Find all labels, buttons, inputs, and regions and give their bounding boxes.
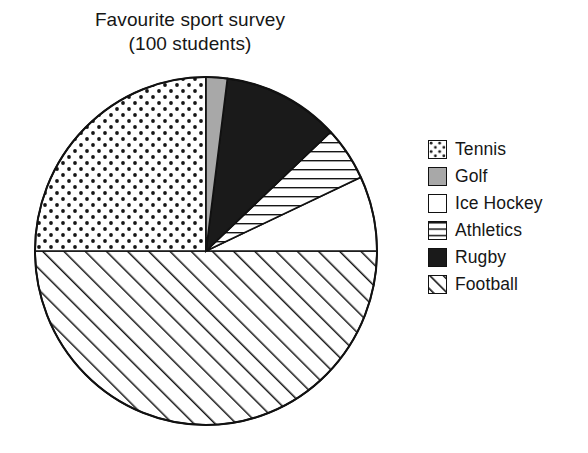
legend-label-golf: Golf [455, 167, 488, 186]
legend-item-ice-hockey: Ice Hockey [428, 190, 580, 217]
legend-label-football: Football [455, 275, 518, 294]
legend-swatch-ice-hockey [428, 194, 447, 213]
chart-legend: Tennis Golf Ice Hockey Athletics Rugby [428, 136, 580, 298]
pie-chart-svg [30, 70, 382, 432]
legend-item-athletics: Athletics [428, 217, 580, 244]
legend-label-ice-hockey: Ice Hockey [455, 194, 543, 213]
legend-item-golf: Golf [428, 163, 580, 190]
pie-slice-football [35, 251, 377, 425]
chart-title-line-2: (100 students) [55, 32, 325, 56]
legend-swatch-tennis [428, 140, 447, 159]
legend-swatch-football [428, 275, 447, 294]
legend-swatch-rugby [428, 248, 447, 267]
legend-item-rugby: Rugby [428, 244, 580, 271]
legend-label-tennis: Tennis [455, 140, 506, 159]
pie-slice-tennis [35, 77, 206, 251]
chart-title: Favourite sport survey (100 students) [55, 8, 325, 56]
pie-chart-plot-area [30, 70, 382, 432]
chart-title-line-1: Favourite sport survey [95, 9, 285, 30]
legend-item-tennis: Tennis [428, 136, 580, 163]
legend-swatch-athletics [428, 221, 447, 240]
pie-chart-figure: Favourite sport survey (100 students) [0, 0, 588, 453]
legend-swatch-golf [428, 167, 447, 186]
legend-label-rugby: Rugby [455, 248, 506, 267]
legend-label-athletics: Athletics [455, 221, 522, 240]
legend-item-football: Football [428, 271, 580, 298]
